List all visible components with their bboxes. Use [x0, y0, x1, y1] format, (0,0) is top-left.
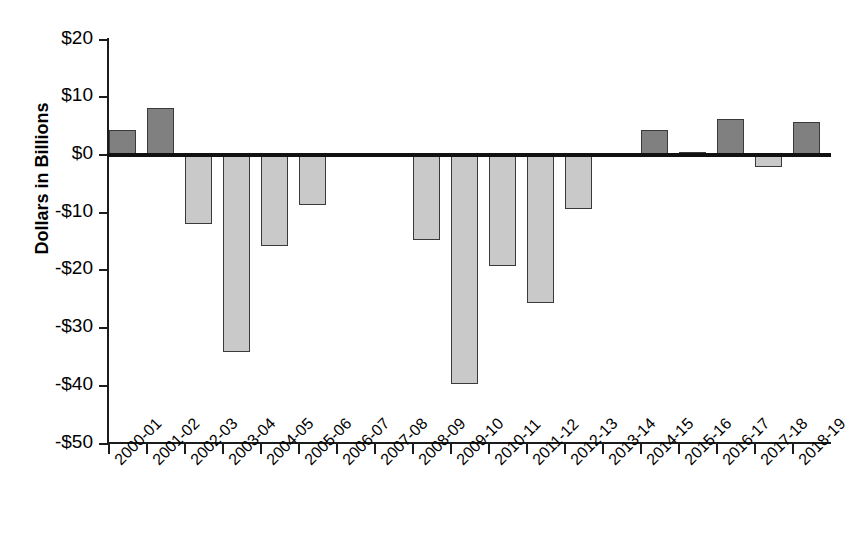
bar-2014-15: [641, 130, 668, 155]
bar-2000-01: [109, 130, 136, 155]
x-axis-tick: [108, 444, 110, 454]
bar-chart: Dollars in Billions $20$10$0-$10-$20-$30…: [0, 0, 853, 556]
x-axis-tick: [754, 444, 756, 454]
x-axis-tick: [260, 444, 262, 454]
y-axis-tick-label: $20: [0, 27, 93, 49]
x-axis-tick: [184, 444, 186, 454]
y-axis-tick: [99, 327, 108, 329]
y-axis-line: [107, 38, 109, 444]
bar-2003-04: [223, 155, 250, 352]
bar-2011-12: [527, 155, 554, 303]
x-axis-tick: [450, 444, 452, 454]
y-axis-tick: [99, 96, 108, 98]
x-axis-tick: [222, 444, 224, 454]
y-axis-tick: [99, 39, 108, 41]
bar-2001-02: [147, 108, 174, 155]
x-axis-tick: [146, 444, 148, 454]
y-axis-tick-label: $0: [0, 142, 93, 164]
x-axis-tick: [640, 444, 642, 454]
y-axis-tick: [99, 443, 108, 445]
bar-2010-11: [489, 155, 516, 266]
bar-2002-03: [185, 155, 212, 224]
bar-2004-05: [261, 155, 288, 246]
y-axis-tick-label: -$10: [0, 200, 93, 222]
y-axis-tick: [99, 385, 108, 387]
x-axis-tick: [716, 444, 718, 454]
y-axis-tick-label: -$40: [0, 373, 93, 395]
x-axis-tick: [526, 444, 528, 454]
x-axis-tick: [792, 444, 794, 454]
x-axis-tick: [374, 444, 376, 454]
x-axis-tick: [488, 444, 490, 454]
y-axis-tick: [99, 212, 108, 214]
x-axis-tick: [602, 444, 604, 454]
y-axis-tick: [99, 269, 108, 271]
y-axis-tick-label: -$30: [0, 315, 93, 337]
x-axis-tick: [678, 444, 680, 454]
x-axis-tick: [412, 444, 414, 454]
zero-baseline: [107, 153, 831, 157]
x-axis-tick: [298, 444, 300, 454]
y-axis-tick-label: $10: [0, 84, 93, 106]
y-axis-tick-label: -$20: [0, 257, 93, 279]
bar-2016-17: [717, 119, 744, 155]
bar-2009-10: [451, 155, 478, 384]
bar-2005-06: [299, 155, 326, 205]
bar-2012-13: [565, 155, 592, 209]
bar-2008-09: [413, 155, 440, 240]
x-axis-tick: [336, 444, 338, 454]
x-axis-tick: [564, 444, 566, 454]
y-axis-tick-label: -$50: [0, 431, 93, 453]
bar-2018-19: [793, 122, 820, 155]
